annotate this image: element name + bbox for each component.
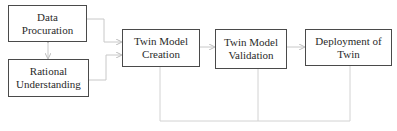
- node-deployment-of-twin: Deployment of Twin: [305, 29, 392, 66]
- node-label-line: Procuration: [22, 24, 73, 37]
- node-label-line: Rational: [16, 65, 81, 78]
- node-rational-understanding: Rational Understanding: [8, 59, 89, 97]
- node-label-line: Validation: [224, 49, 278, 62]
- node-label-line: Deployment of: [315, 35, 381, 48]
- feedback-loop-line: [160, 66, 350, 121]
- node-label-line: Twin: [315, 48, 381, 61]
- node-label-line: Creation: [134, 48, 188, 61]
- node-label-line: Twin Model: [224, 36, 278, 49]
- node-label-line: Data: [22, 11, 73, 24]
- connector-procuration-creation: [87, 19, 121, 42]
- connector-understanding-creation: [89, 55, 121, 80]
- node-twin-model-creation: Twin Model Creation: [122, 29, 200, 67]
- node-twin-model-validation: Twin Model Validation: [215, 29, 287, 69]
- node-data-procuration: Data Procuration: [8, 5, 87, 42]
- node-label-line: Understanding: [16, 78, 81, 91]
- node-label-line: Twin Model: [134, 35, 188, 48]
